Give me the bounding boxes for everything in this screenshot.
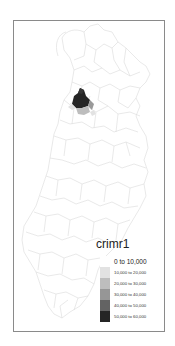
legend-swatch (100, 278, 110, 289)
legend-item: 0 to 10,000 (100, 256, 163, 267)
legend-items: 0 to 10,000 10,000 to 20,000 20,000 to 3… (100, 256, 163, 322)
legend-label: 10,000 to 20,000 (114, 270, 146, 275)
legend-item: 40,000 to 50,000 (100, 300, 163, 311)
legend-item: 10,000 to 20,000 (100, 267, 163, 278)
legend-swatch (100, 267, 110, 278)
legend-swatch (100, 256, 110, 267)
legend-label: 20,000 to 30,000 (114, 281, 146, 286)
legend-item: 30,000 to 40,000 (100, 289, 163, 300)
map-legend: crimr1 0 to 10,000 10,000 to 20,000 20,0… (95, 238, 163, 322)
high-crime-cluster (68, 88, 96, 116)
legend-label: 0 to 10,000 (114, 258, 147, 265)
legend-label: 30,000 to 40,000 (114, 292, 146, 297)
legend-item: 20,000 to 30,000 (100, 278, 163, 289)
legend-title: crimr1 (96, 238, 163, 251)
legend-swatch (100, 289, 110, 300)
legend-label: 50,000 to 60,000 (114, 314, 146, 319)
legend-swatch (100, 300, 110, 311)
legend-label: 40,000 to 50,000 (114, 303, 146, 308)
legend-item: 50,000 to 60,000 (100, 311, 163, 322)
legend-swatch (100, 311, 110, 322)
